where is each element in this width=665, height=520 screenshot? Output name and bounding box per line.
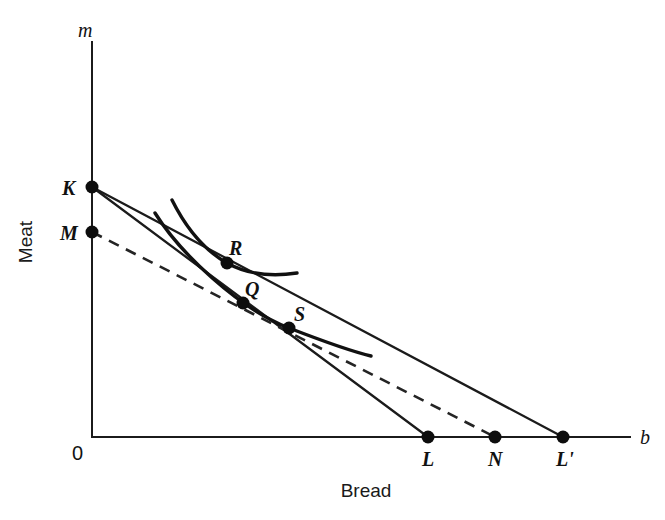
origin-label: 0 xyxy=(72,442,83,464)
x-axis-symbol: b xyxy=(640,426,650,448)
point-label-R: R xyxy=(228,237,242,259)
point-label-L: L xyxy=(421,448,434,470)
y-axis-symbol: m xyxy=(78,19,92,41)
figure-root: m b 0 K M R Q S L N L' Meat Bread xyxy=(0,0,665,520)
point-marker-N xyxy=(489,431,502,444)
point-marker-M xyxy=(86,226,99,239)
point-label-N: N xyxy=(487,448,504,470)
point-marker-Lprime xyxy=(557,431,570,444)
x-axis-title: Bread xyxy=(341,480,392,501)
point-label-K: K xyxy=(61,177,77,199)
y-axis-title: Meat xyxy=(15,220,36,263)
point-label-Q: Q xyxy=(245,278,259,300)
point-marker-L xyxy=(422,431,435,444)
indifference-curve-lower xyxy=(155,213,371,356)
point-label-S: S xyxy=(294,303,305,325)
point-label-Lprime: L' xyxy=(555,448,574,470)
indifference-curve-diagram: m b 0 K M R Q S L N L' Meat Bread xyxy=(0,0,665,520)
compensated-budget-line-MN xyxy=(92,232,495,437)
point-marker-K xyxy=(86,181,99,194)
point-label-M: M xyxy=(59,222,79,244)
